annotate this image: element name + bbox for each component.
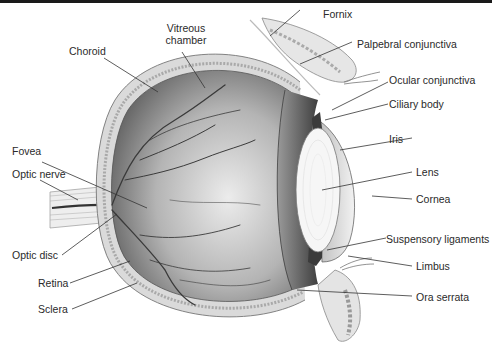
- label-iris: Iris: [389, 133, 403, 145]
- label-choroid: Choroid: [69, 45, 106, 57]
- label-ciliary-body: Ciliary body: [389, 98, 444, 110]
- label-palpebral-conjunctiva: Palpebral conjunctiva: [357, 38, 457, 50]
- label-sclera: Sclera: [38, 303, 68, 315]
- label-optic-nerve: Optic nerve: [12, 168, 66, 180]
- lower-eyelid: [318, 258, 374, 341]
- vitreous-body: [112, 70, 301, 301]
- label-fovea: Fovea: [12, 145, 41, 157]
- label-ora-serrata: Ora serrata: [416, 291, 469, 303]
- label-retina: Retina: [38, 277, 68, 289]
- label-vitreous-chamber-line1: Vitreous: [162, 22, 210, 34]
- eye-anatomy-diagram: Choroid Vitreous chamber Fovea Optic ner…: [0, 0, 492, 353]
- label-ocular-conjunctiva: Ocular conjunctiva: [389, 74, 475, 86]
- label-lens: Lens: [416, 166, 439, 178]
- label-optic-disc: Optic disc: [12, 249, 58, 261]
- label-limbus: Limbus: [416, 260, 450, 272]
- label-vitreous-chamber-line2: chamber: [162, 34, 210, 46]
- lens-shape: [296, 128, 340, 252]
- label-cornea: Cornea: [416, 193, 450, 205]
- label-fornix: Fornix: [323, 8, 352, 20]
- label-suspensory-ligaments: Suspensory ligaments: [386, 233, 489, 245]
